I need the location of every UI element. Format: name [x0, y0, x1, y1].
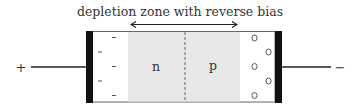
- p-region-label: p: [209, 58, 217, 73]
- right-electrode: [275, 31, 282, 103]
- positive-terminal-label: +: [16, 60, 27, 75]
- pn-junction-diagram: depletion zone with reverse bias + − n p: [0, 0, 357, 110]
- depletion-zone: [128, 32, 240, 102]
- negative-terminal-label: −: [335, 60, 346, 75]
- depletion-zone-label: depletion zone with reverse bias: [77, 4, 283, 19]
- n-region-label: n: [152, 59, 160, 74]
- left-electrode: [86, 31, 93, 103]
